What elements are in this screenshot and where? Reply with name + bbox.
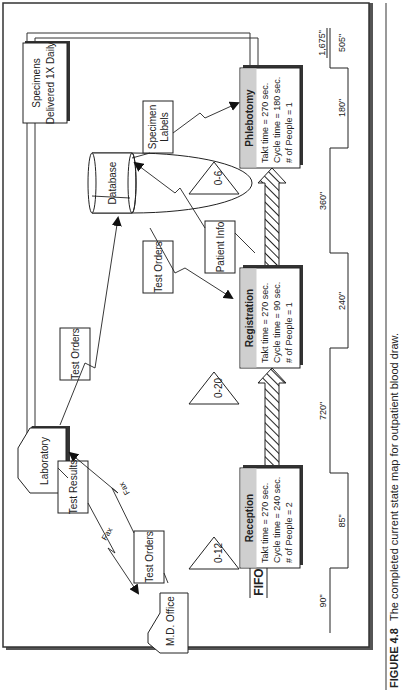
timeline-wait-1: 90": [318, 594, 328, 607]
svg-text:Laboratory: Laboratory: [39, 437, 50, 485]
svg-text:FIFO: FIFO: [252, 568, 266, 595]
figure-label: FIGURE 4.8: [388, 628, 400, 688]
process-name: Registration: [244, 289, 255, 347]
svg-text:Takt time = 270 sec.: Takt time = 270 sec.: [260, 83, 270, 163]
svg-text:Delivered 1X Daily: Delivered 1X Daily: [45, 42, 56, 124]
info-box-specimen-labels: Specimen Labels: [143, 101, 173, 153]
process-box-registration: Registration Takt time = 270 sec. Cycle …: [240, 265, 303, 368]
info-box-patient-info: Patient Info: [205, 221, 235, 273]
process-name: Phlebotomy: [244, 89, 255, 147]
svg-text:Takt time = 270 sec.: Takt time = 270 sec.: [260, 483, 270, 563]
value-stream-map-figure: FIGURE 4.8 The completed current state m…: [0, 0, 403, 693]
svg-text:Test Orders: Test Orders: [153, 241, 164, 293]
svg-text:Specimens: Specimens: [31, 58, 42, 107]
process-box-reception: Reception Takt time = 270 sec. Cycle tim…: [240, 465, 303, 568]
svg-text:Cycle time = 240 sec.: Cycle time = 240 sec.: [272, 477, 282, 563]
svg-text:Patient Info: Patient Info: [215, 221, 226, 272]
svg-text:Cycle time = 90 sec.: Cycle time = 90 sec.: [272, 282, 282, 363]
info-box-test-orders-lab: Test Orders: [60, 328, 90, 380]
svg-text:Specimen: Specimen: [147, 105, 158, 149]
info-box-test-results: Test Results: [58, 460, 88, 514]
process-box-phlebotomy: Phlebotomy Takt time = 270 sec. Cycle ti…: [240, 65, 303, 168]
svg-text:Cycle time = 180 sec.: Cycle time = 180 sec.: [272, 77, 282, 163]
timeline-total-process: 505": [337, 34, 347, 52]
svg-text:Test Results: Test Results: [68, 460, 79, 514]
timeline-wait-2: 720": [318, 402, 328, 420]
timeline-wait-3: 360": [318, 192, 328, 210]
svg-text:Test Orders: Test Orders: [144, 531, 155, 583]
info-box-test-orders-db: Test Orders: [143, 241, 173, 293]
database-label: Database: [107, 161, 118, 204]
timeline-process-1: 85": [337, 514, 347, 527]
process-name: Reception: [244, 494, 255, 542]
info-box-test-orders-md: Test Orders: [134, 531, 164, 583]
svg-text:# of People = 1: # of People = 1: [284, 102, 294, 163]
svg-text:Takt time = 270 sec.: Takt time = 270 sec.: [260, 283, 270, 363]
svg-text:Test Orders: Test Orders: [70, 328, 81, 380]
svg-text:# of People = 1: # of People = 1: [284, 302, 294, 363]
svg-text:M.D. Office: M.D. Office: [165, 596, 176, 646]
figure-caption: The completed current state map for outp…: [388, 333, 400, 621]
fifo-label: FIFO: [250, 565, 267, 598]
timeline-process-2: 240": [337, 292, 347, 310]
svg-text:Labels: Labels: [159, 112, 170, 141]
svg-text:0-20: 0-20: [213, 378, 224, 398]
svg-text:0-6: 0-6: [213, 170, 224, 185]
svg-text:0-12: 0-12: [213, 543, 224, 563]
info-box-specimens-delivered: Specimens Delivered 1X Daily: [23, 41, 70, 124]
timeline-total-lead: 1,675": [317, 30, 327, 56]
timeline-process-3: 180": [337, 99, 347, 117]
svg-text:# of People = 2: # of People = 2: [284, 502, 294, 563]
